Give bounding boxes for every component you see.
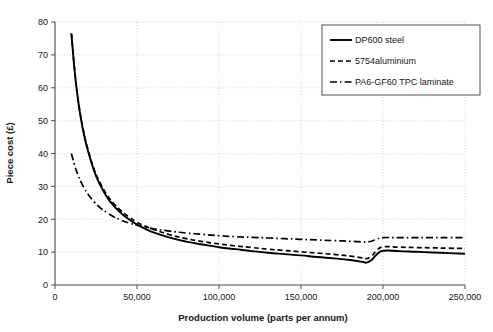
legend-item-label: DP600 steel (355, 35, 404, 45)
y-tick-label: 80 (38, 17, 48, 27)
y-tick-label: 70 (38, 50, 48, 60)
chart-figure: 050,000100,000150,000200,000250,000 0102… (0, 0, 493, 332)
line-chart: 050,000100,000150,000200,000250,000 0102… (0, 0, 493, 332)
x-tick-label: 250,000 (449, 292, 482, 302)
y-tick-label: 40 (38, 149, 48, 159)
x-axis-label: Production volume (parts per annum) (178, 312, 347, 323)
y-tick-label: 20 (38, 215, 48, 225)
x-tick-label: 200,000 (367, 292, 400, 302)
x-tick-label: 100,000 (203, 292, 236, 302)
x-tick-label: 50,000 (123, 292, 151, 302)
y-tick-label: 10 (38, 247, 48, 257)
x-tick-label: 150,000 (285, 292, 318, 302)
y-tick-label: 60 (38, 83, 48, 93)
y-tick-label: 50 (38, 116, 48, 126)
y-tick-labels: 01020304050607080 (38, 17, 48, 290)
y-tick-label: 0 (43, 280, 48, 290)
legend-item-label: 5754aluminium (355, 56, 416, 66)
y-axis-label: Piece cost (£) (4, 122, 15, 183)
y-tick-label: 30 (38, 182, 48, 192)
legend-item-label: PA6-GF60 TPC laminate (355, 77, 454, 87)
legend: DP600 steel5754aluminiumPA6-GF60 TPC lam… (322, 25, 480, 95)
x-tick-label: 0 (52, 292, 57, 302)
